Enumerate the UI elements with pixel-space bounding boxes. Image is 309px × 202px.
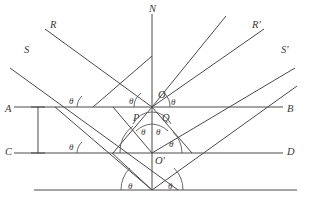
label-point-N: N <box>149 4 156 15</box>
angle-arc-Op-right <box>173 132 182 153</box>
label-ray-S: S <box>24 45 29 56</box>
label-angle-Op-right: θ <box>169 140 173 149</box>
label-angle-bottom-left: θ <box>128 182 132 191</box>
ray-R-incident <box>45 29 152 107</box>
label-point-C: C <box>5 147 12 158</box>
angle-arc-ab-left <box>77 96 82 107</box>
ray-diagram-figure: N R R' S S' O A B P Q C D O' θ θ θ θ θ θ… <box>0 0 309 202</box>
label-point-O-prime: O' <box>155 156 165 167</box>
label-point-A: A <box>5 104 11 115</box>
figure-canvas <box>0 0 309 202</box>
label-angle-O-right: θ <box>171 98 175 107</box>
label-angle-bottom-right: θ <box>168 182 172 191</box>
ray-Rprime-reflected <box>152 29 264 107</box>
label-point-P: P <box>133 113 139 124</box>
label-ray-S-prime: S' <box>281 45 289 56</box>
ray-left-to-O <box>93 56 152 107</box>
label-ray-R-prime: R' <box>252 20 261 31</box>
label-angle-O-below-right: θ <box>156 128 160 137</box>
label-point-D: D <box>287 147 295 158</box>
label-angle-O-below-left: θ <box>141 128 145 137</box>
label-angle-ab-left: θ <box>69 97 73 106</box>
label-point-O: O <box>158 90 166 101</box>
label-angle-cd-left: θ <box>69 143 73 152</box>
label-ray-R: R <box>50 20 56 31</box>
label-angle-O-left: θ <box>129 97 133 106</box>
label-point-B: B <box>287 104 293 115</box>
ray-S-incident <box>10 68 152 171</box>
label-point-Q: Q <box>162 113 170 124</box>
angle-arc-cd-left <box>77 142 82 153</box>
